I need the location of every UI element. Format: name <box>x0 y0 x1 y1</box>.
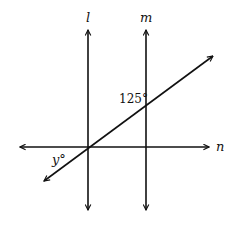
angle-y-label: y° <box>51 152 66 167</box>
transversal-line <box>44 56 213 181</box>
label-m: m <box>140 10 152 25</box>
geometry-diagram: l m n 125° y° <box>0 0 237 226</box>
label-n: n <box>216 139 224 154</box>
label-l: l <box>86 10 90 25</box>
angle-125-label: 125° <box>119 92 148 106</box>
